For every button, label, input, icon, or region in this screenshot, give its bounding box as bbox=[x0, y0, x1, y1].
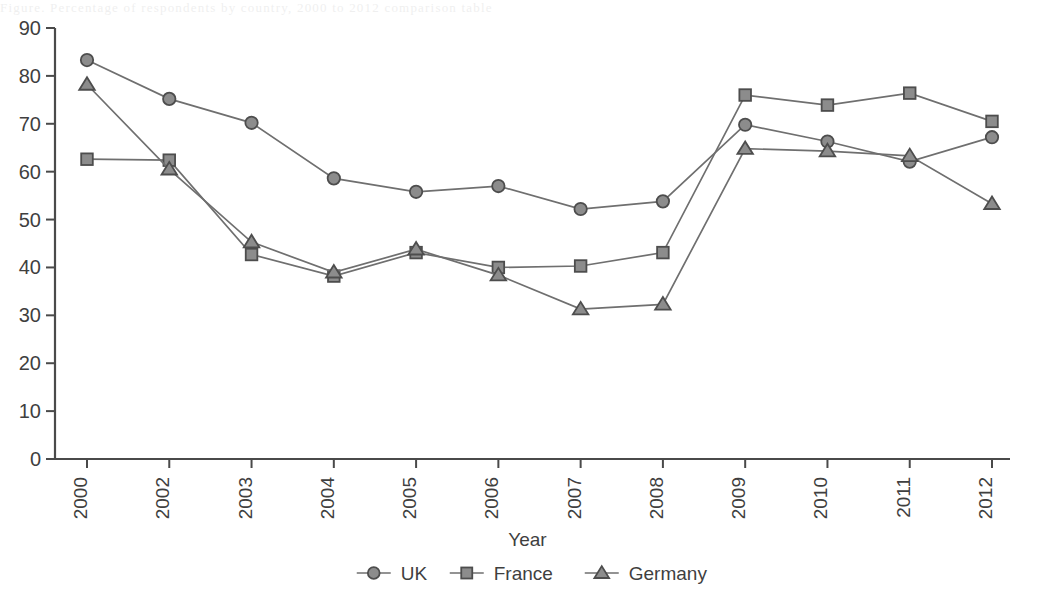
x-tick-label: 2000 bbox=[70, 477, 91, 519]
x-tick-label: 2004 bbox=[317, 477, 338, 520]
chart-axes bbox=[55, 28, 1010, 459]
data-point-france-2011 bbox=[904, 87, 916, 99]
data-point-germany-2009 bbox=[737, 141, 753, 154]
legend-marker-germany bbox=[594, 566, 609, 578]
y-tick-label: 40 bbox=[19, 256, 41, 278]
line-chart: 0102030405060708090200020022003200420052… bbox=[0, 0, 1048, 590]
x-tick-label: 2008 bbox=[646, 477, 667, 519]
data-point-uk-2007 bbox=[574, 203, 586, 215]
data-point-uk-2012 bbox=[986, 131, 998, 143]
x-tick-label: 2005 bbox=[399, 477, 420, 519]
data-point-uk-2004 bbox=[328, 172, 340, 184]
legend-item-france[interactable]: France bbox=[450, 563, 553, 584]
data-point-germany-2000 bbox=[79, 77, 95, 90]
series-line-uk bbox=[87, 60, 992, 209]
x-axis-title: Year bbox=[508, 529, 547, 550]
series-france bbox=[81, 87, 998, 282]
y-tick-label: 0 bbox=[30, 448, 41, 470]
data-point-germany-2012 bbox=[984, 197, 1000, 210]
data-point-uk-2005 bbox=[410, 186, 422, 198]
data-point-uk-2000 bbox=[81, 54, 93, 66]
data-point-uk-2003 bbox=[245, 117, 257, 129]
y-tick-label: 60 bbox=[19, 161, 41, 183]
data-point-france-2007 bbox=[575, 260, 587, 272]
legend-marker-uk bbox=[368, 567, 380, 579]
legend-marker-france bbox=[461, 567, 472, 578]
x-tick-label: 2002 bbox=[152, 477, 173, 519]
y-tick-label: 90 bbox=[19, 17, 41, 39]
legend-label-uk: UK bbox=[401, 563, 428, 584]
y-tick-label: 50 bbox=[19, 209, 41, 231]
data-point-france-2008 bbox=[657, 247, 669, 259]
series-uk bbox=[81, 54, 998, 215]
y-tick-label: 20 bbox=[19, 352, 41, 374]
y-tick-label: 10 bbox=[19, 400, 41, 422]
data-point-uk-2008 bbox=[657, 195, 669, 207]
data-point-uk-2006 bbox=[492, 180, 504, 192]
x-tick-label: 2010 bbox=[810, 477, 831, 519]
x-tick-label: 2003 bbox=[235, 477, 256, 519]
y-tick-label: 30 bbox=[19, 304, 41, 326]
data-point-france-2009 bbox=[739, 89, 751, 101]
series-line-france bbox=[87, 93, 992, 276]
x-tick-label: 2012 bbox=[975, 477, 996, 519]
y-tick-label: 80 bbox=[19, 65, 41, 87]
x-tick-label: 2009 bbox=[728, 477, 749, 519]
data-point-uk-2009 bbox=[739, 119, 751, 131]
chart-legend: UKFranceGermany bbox=[357, 563, 708, 584]
data-point-france-2010 bbox=[822, 99, 834, 111]
data-point-germany-2008 bbox=[655, 297, 671, 310]
x-tick-label: 2011 bbox=[893, 477, 914, 518]
y-tick-label: 70 bbox=[19, 113, 41, 135]
legend-label-france: France bbox=[494, 563, 553, 584]
x-tick-label: 2006 bbox=[481, 477, 502, 519]
data-point-france-2000 bbox=[81, 153, 93, 165]
legend-item-uk[interactable]: UK bbox=[357, 563, 428, 584]
data-point-france-2012 bbox=[986, 116, 998, 128]
data-point-uk-2002 bbox=[163, 93, 175, 105]
legend-label-germany: Germany bbox=[629, 563, 708, 584]
x-tick-label: 2007 bbox=[564, 477, 585, 519]
data-point-france-2003 bbox=[246, 249, 258, 261]
legend-item-germany[interactable]: Germany bbox=[585, 563, 708, 584]
chart-container: Figure. Percentage of respondents by cou… bbox=[0, 0, 1048, 590]
